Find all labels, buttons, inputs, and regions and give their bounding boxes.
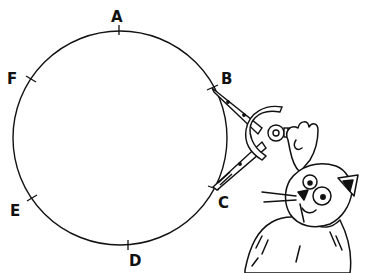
label-c: C	[218, 194, 229, 212]
label-a: A	[111, 8, 123, 26]
illustration: A B C D E F	[0, 0, 367, 273]
label-f: F	[7, 70, 17, 88]
tick-e	[27, 195, 37, 201]
main-circle	[13, 31, 227, 245]
tick-f	[26, 76, 36, 82]
compass-icon	[212, 88, 298, 190]
label-d: D	[129, 252, 141, 270]
label-e: E	[10, 202, 20, 220]
label-b: B	[221, 70, 232, 88]
tick-marks	[26, 25, 219, 250]
